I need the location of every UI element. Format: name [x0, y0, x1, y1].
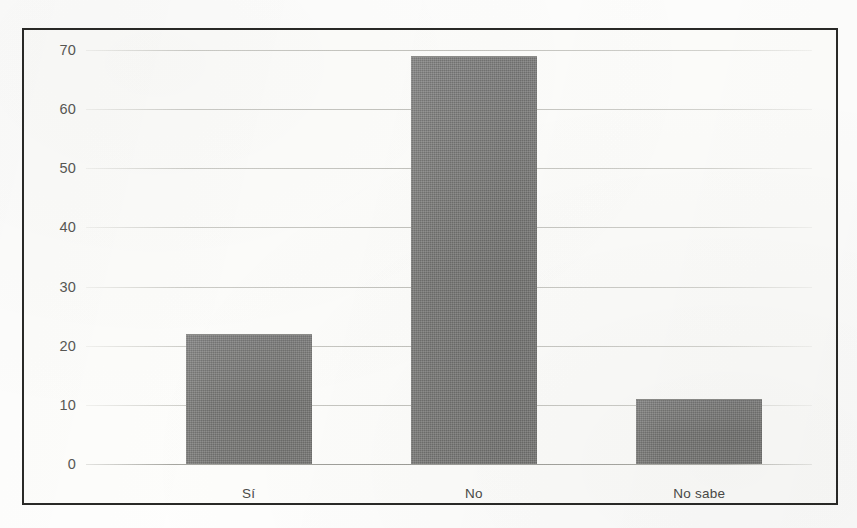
- x-axis-tick-label: Sí: [242, 486, 255, 501]
- gridline: [86, 50, 812, 51]
- y-axis-tick-label: 0: [30, 456, 76, 472]
- x-axis-tick-label: No sabe: [673, 486, 725, 501]
- scanned-page: 010203040506070SíNoNo sabe: [0, 0, 857, 528]
- y-axis-tick-label: 20: [30, 338, 76, 354]
- y-axis-tick-label: 40: [30, 219, 76, 235]
- y-axis-tick-label: 30: [30, 279, 76, 295]
- y-axis-tick-label: 10: [30, 397, 76, 413]
- y-axis-tick-label: 70: [30, 42, 76, 58]
- y-axis-tick-label: 60: [30, 101, 76, 117]
- axis-baseline: [86, 464, 812, 465]
- bar: [411, 56, 537, 464]
- y-axis-tick-label: 50: [30, 160, 76, 176]
- bar-chart: 010203040506070SíNoNo sabe: [24, 30, 836, 503]
- chart-frame: 010203040506070SíNoNo sabe: [22, 28, 838, 505]
- x-axis-tick-label: No: [465, 486, 483, 501]
- bar: [636, 399, 762, 464]
- bar: [186, 334, 312, 464]
